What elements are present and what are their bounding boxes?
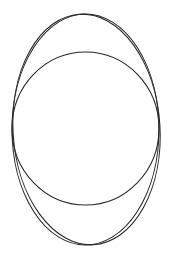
background bbox=[0, 0, 172, 259]
ellipse-diagram bbox=[0, 0, 172, 259]
figure-canvas bbox=[0, 0, 172, 259]
